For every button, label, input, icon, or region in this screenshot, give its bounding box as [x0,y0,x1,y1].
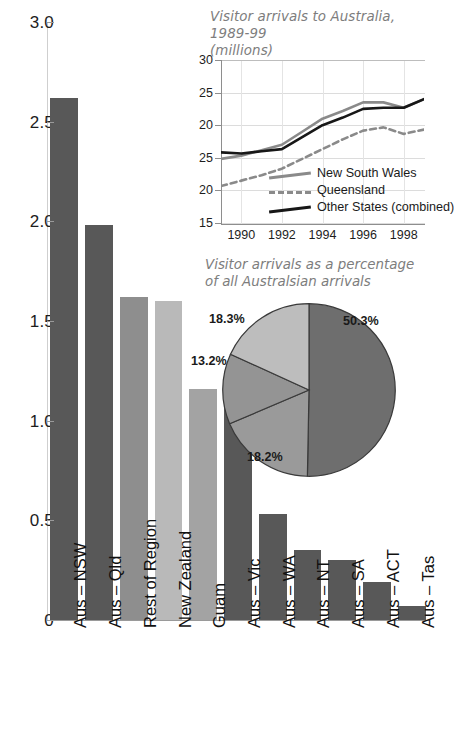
pie-slice-label: 18.3% [209,312,245,326]
gridline-horizontal [222,223,425,224]
y-tick-2.5: 2.5 [0,122,54,123]
y-tick-0: 0 [0,620,54,621]
line-series [221,99,424,153]
bar-label: Aus – ACT [384,549,403,628]
y-tick-1.0: 1.0 [0,421,54,422]
y-tick-mark [47,620,54,621]
bar-label: Aus – NSW [71,543,90,628]
legend-label: Queensland [317,183,385,197]
legend-label: New South Wales [317,166,417,180]
y-tick-mark [47,221,54,222]
y-tick-mark [47,321,54,322]
pie-chart-inset: Visitor arrivals as a percentage of all … [191,256,429,486]
bar-label: Aus – WA [280,555,299,628]
bar-label: Aus – Qld [106,556,125,628]
y-tick-2.0: 2.0 [0,221,54,222]
line-y-tick-label: 25 [196,151,213,165]
line-y-tick-label: 20 [196,118,213,132]
bar-label: Rest of Region [141,519,160,628]
line-y-tick-label: 25 [196,86,213,100]
y-tick-mark [47,122,54,123]
line-y-tick-label: 20 [196,183,213,197]
legend-label: Other States (combined) [317,200,454,214]
bar-label: Guam [210,583,229,628]
line-chart-title-line1: Visitor arrivals to Australia, 1989-99 [210,9,395,41]
bar-label: Aus – NT [314,559,333,628]
legend-swatch [269,191,311,194]
line-chart-title: Visitor arrivals to Australia, 1989-99 (… [210,8,430,59]
bar-label: New Zealand [176,531,195,628]
bar-label: Aus – Vic [245,559,264,628]
pie-slice-label: 18.2% [247,450,283,464]
line-y-tick-label: 30 [196,53,213,67]
pie-slice[interactable] [307,304,395,477]
line-chart-title-line2: (millions) [210,43,273,58]
line-chart-inset: Visitor arrivals to Australia, 1989-99 (… [196,8,429,250]
line-x-tick-label: 1992 [268,228,296,242]
line-x-tick-label: 1996 [349,228,377,242]
line-x-tick-label: 1994 [309,228,337,242]
bar-label: Aus – Tas [419,556,438,628]
pie-slice-label: 13.2% [191,354,227,368]
y-tick-3.0: 3.0 [0,22,54,23]
line-y-tick-mark [215,223,222,224]
y-tick-mark [47,421,54,422]
y-tick-mark [47,520,54,521]
pie-slice-label: 50.3% [343,314,379,328]
line-chart-x-axis [221,224,425,225]
bar[interactable] [50,98,78,620]
x-axis-line [47,620,429,621]
line-x-tick-label: 1998 [390,228,418,242]
y-tick-1.5: 1.5 [0,321,54,322]
line-y-tick-label: 15 [196,216,213,230]
y-tick-mark [47,22,54,23]
y-tick-0.5: 0.5 [0,520,54,521]
line-x-tick-label: 1990 [227,228,255,242]
line-chart-series-area [221,60,424,223]
pie-chart-title: Visitor arrivals as a percentage of all … [205,256,429,290]
bar-label: Aus – SA [349,559,368,628]
pie-chart-title-line2: of all Australsian arrivals [205,274,371,289]
pie-chart-title-line1: Visitor arrivals as a percentage [205,257,414,272]
